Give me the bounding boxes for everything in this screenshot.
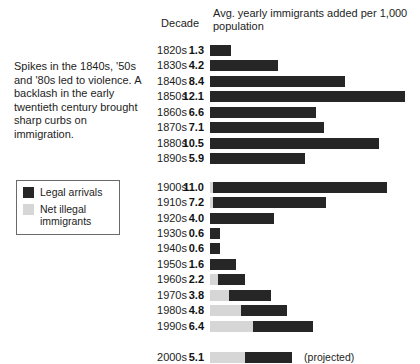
column-header-value: Avg. yearly immigrants added per 1,000 p… <box>213 7 413 33</box>
row-value-label: 6.6 <box>174 106 204 119</box>
row-value-label: 2.2 <box>174 273 204 286</box>
legend-label-illegal: Net illegal immigrants <box>40 203 113 228</box>
legend-swatch-legal-icon <box>23 187 34 198</box>
row-value-label: 4.2 <box>174 59 204 72</box>
bar-segment-legal <box>210 107 316 118</box>
row-value-label: 5.1 <box>174 351 204 364</box>
row-value-label: 7.2 <box>174 196 204 209</box>
bar-segment-illegal <box>210 321 253 332</box>
bar-segment-legal <box>210 228 220 239</box>
row-value-label: 10.5 <box>174 137 204 150</box>
row-value-label: 4.8 <box>174 304 204 317</box>
bar-segment-legal <box>213 182 387 193</box>
row-value-label: 6.4 <box>174 320 204 333</box>
bar-segment-legal <box>210 213 274 224</box>
row-value-label: 12.1 <box>174 90 204 103</box>
chart-legend: Legal arrivals Net illegal immigrants <box>16 180 120 235</box>
row-bar <box>210 274 245 285</box>
row-bar <box>210 213 274 224</box>
bar-segment-illegal <box>210 290 229 301</box>
bar-segment-illegal <box>210 305 241 316</box>
row-value-label: 0.6 <box>174 242 204 255</box>
bar-segment-legal <box>210 138 379 149</box>
bar-segment-legal <box>245 352 292 363</box>
row-value-label: 8.4 <box>174 75 204 88</box>
row-bar <box>210 197 326 208</box>
bar-segment-illegal <box>210 274 218 285</box>
row-bar <box>210 45 231 56</box>
legend-item-illegal: Net illegal immigrants <box>23 203 113 228</box>
row-value-label: 11.0 <box>174 181 204 194</box>
legend-label-legal: Legal arrivals <box>40 186 102 199</box>
bar-segment-legal <box>253 321 313 332</box>
bar-segment-legal <box>210 91 405 102</box>
bar-segment-legal <box>210 122 324 133</box>
bar-segment-legal <box>210 45 231 56</box>
row-bar <box>210 305 287 316</box>
bar-segment-illegal <box>210 352 245 363</box>
row-bar <box>210 290 271 301</box>
bar-segment-legal <box>210 153 305 164</box>
row-bar <box>210 243 220 254</box>
chart-caption: Spikes in the 1840s, '50s and '80s led t… <box>14 60 146 142</box>
row-bar <box>210 228 220 239</box>
bar-segment-legal <box>229 290 271 301</box>
row-value-label: 5.9 <box>174 152 204 165</box>
bar-segment-legal <box>210 259 236 270</box>
row-bar <box>210 107 316 118</box>
row-bar <box>210 91 405 102</box>
bar-segment-legal <box>210 76 345 87</box>
row-bar <box>210 321 313 332</box>
row-bar <box>210 352 292 363</box>
row-bar <box>210 153 305 164</box>
row-value-label: 4.0 <box>174 212 204 225</box>
row-value-label: 1.3 <box>174 44 204 57</box>
row-bar <box>210 60 278 71</box>
bar-segment-legal <box>241 305 288 316</box>
bar-segment-legal <box>210 243 220 254</box>
column-header-decade: Decade <box>143 17 199 29</box>
row-bar <box>210 122 324 133</box>
row-bar <box>210 76 345 87</box>
bar-segment-legal <box>218 274 245 285</box>
legend-swatch-illegal-icon <box>23 204 34 215</box>
row-value-label: 0.6 <box>174 227 204 240</box>
bar-segment-legal <box>210 60 278 71</box>
row-value-label: 3.8 <box>174 289 204 302</box>
row-bar <box>210 138 379 149</box>
row-value-label: 1.6 <box>174 258 204 271</box>
row-bar <box>210 182 387 193</box>
row-annotation: (projected) <box>304 351 354 364</box>
row-bar <box>210 259 236 270</box>
bar-segment-legal <box>213 197 326 208</box>
row-value-label: 7.1 <box>174 121 204 134</box>
legend-item-legal: Legal arrivals <box>23 186 113 199</box>
